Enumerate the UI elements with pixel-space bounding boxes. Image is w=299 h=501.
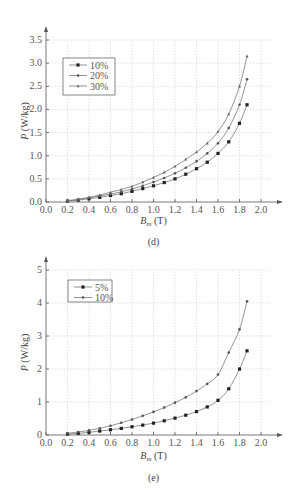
x-tick-label: 0.4 <box>83 437 96 448</box>
y-tick-label: 5 <box>37 264 42 275</box>
x-axis-label: Bm (T) <box>140 450 166 463</box>
x-tick-label: 0.2 <box>61 437 74 448</box>
x-tick-label: 2.0 <box>255 204 268 215</box>
x-tick-label: 0.2 <box>61 204 74 215</box>
y-tick-label: 3.5 <box>30 34 43 45</box>
x-tick-label: 1.6 <box>212 437 225 448</box>
data-point <box>173 417 176 420</box>
x-tick-label: 1.0 <box>147 204 160 215</box>
legend-marker-square-icon <box>81 285 84 288</box>
data-point <box>184 414 187 417</box>
data-point <box>163 419 166 422</box>
data-point <box>184 166 187 169</box>
data-point <box>141 415 144 418</box>
y-axis-arrow-icon <box>44 26 48 32</box>
y-tick-label: 1.5 <box>30 127 43 138</box>
data-point <box>246 78 249 81</box>
data-point <box>163 406 166 409</box>
data-point <box>130 425 133 428</box>
data-point <box>206 152 209 155</box>
y-axis-label: P (W/kg) <box>19 102 31 141</box>
x-tick-label: 0.6 <box>104 204 117 215</box>
y-tick-label: 2 <box>37 363 42 374</box>
data-point <box>152 184 155 187</box>
data-point <box>152 181 155 184</box>
data-point <box>227 127 230 130</box>
data-point <box>184 396 187 399</box>
chart-e: 0.00.20.40.60.81.01.21.41.61.82.0012345B… <box>19 256 283 484</box>
x-tick-label: 1.0 <box>147 437 160 448</box>
data-point <box>195 410 198 413</box>
data-point <box>206 405 209 408</box>
y-tick-label: 2.0 <box>30 103 43 114</box>
data-point <box>216 152 219 155</box>
data-point <box>206 383 209 386</box>
y-tick-label: 0.0 <box>30 196 43 207</box>
x-tick-label: 1.4 <box>190 204 203 215</box>
data-point <box>173 177 176 180</box>
data-point <box>246 300 249 303</box>
data-point <box>163 177 166 180</box>
legend-label: 20% <box>90 70 108 81</box>
data-point <box>174 172 177 175</box>
data-point <box>184 158 187 161</box>
data-point <box>217 373 220 376</box>
data-point <box>238 104 241 107</box>
y-axis-label: P (W/kg) <box>19 334 31 373</box>
x-tick-label: 1.6 <box>212 204 225 215</box>
series-10pct <box>66 300 248 435</box>
y-tick-label: 0.5 <box>30 173 43 184</box>
y-tick-label: 0 <box>37 429 42 440</box>
x-tick-label: 0.4 <box>83 204 96 215</box>
x-tick-label: 0.8 <box>126 437 139 448</box>
x-axis-arrow-icon <box>277 200 283 204</box>
data-point <box>195 390 198 393</box>
data-point <box>195 167 198 170</box>
data-point <box>227 112 230 115</box>
data-point <box>120 421 123 424</box>
data-point <box>109 424 112 427</box>
data-point <box>217 142 220 145</box>
x-tick-label: 0.6 <box>104 437 117 448</box>
data-point <box>77 431 80 434</box>
data-point <box>238 122 241 125</box>
y-tick-label: 3 <box>37 330 42 341</box>
x-axis-label: Bm (T) <box>140 215 166 228</box>
data-point <box>206 161 209 164</box>
data-point <box>141 185 144 188</box>
y-tick-label: 1 <box>37 396 42 407</box>
data-point <box>227 351 230 354</box>
x-axis-arrow-icon <box>277 433 283 437</box>
data-point <box>227 140 230 143</box>
data-point <box>245 349 248 352</box>
x-tick-label: 1.2 <box>169 437 182 448</box>
data-point <box>120 191 123 194</box>
legend: 5%10% <box>68 280 113 303</box>
data-point <box>195 160 198 163</box>
data-point <box>131 188 134 191</box>
series-20pct <box>66 78 248 202</box>
data-point <box>66 432 69 435</box>
figure: 0.00.20.40.60.81.01.21.41.61.82.00.00.51… <box>0 0 299 501</box>
legend-label: 30% <box>90 81 108 92</box>
y-tick-label: 4 <box>37 297 42 308</box>
y-tick-label: 1.0 <box>30 150 43 161</box>
data-point <box>109 428 112 431</box>
data-point <box>141 424 144 427</box>
series-10pct <box>66 103 249 202</box>
x-tick-label: 1.8 <box>233 204 246 215</box>
legend-label: 10% <box>95 292 113 303</box>
x-tick-label: 1.8 <box>233 437 246 448</box>
legend-marker-circle-icon <box>82 296 85 299</box>
data-point <box>184 173 187 176</box>
data-point <box>88 429 91 432</box>
data-point <box>238 367 241 370</box>
legend-marker-circle-icon <box>77 74 80 77</box>
data-point <box>98 427 101 430</box>
data-point <box>152 422 155 425</box>
x-tick-label: 1.4 <box>190 437 203 448</box>
legend-marker-square-icon <box>76 63 79 66</box>
legend-label: 5% <box>95 282 108 293</box>
data-point <box>174 401 177 404</box>
x-tick-label: 1.2 <box>169 204 182 215</box>
